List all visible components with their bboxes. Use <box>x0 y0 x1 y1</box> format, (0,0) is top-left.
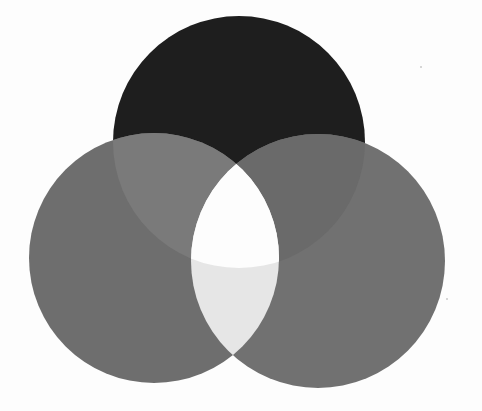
venn-diagram-canvas <box>0 0 482 411</box>
three-circle-venn-diagram <box>0 0 482 411</box>
scan-speck <box>446 298 448 300</box>
scan-speck <box>420 66 422 68</box>
